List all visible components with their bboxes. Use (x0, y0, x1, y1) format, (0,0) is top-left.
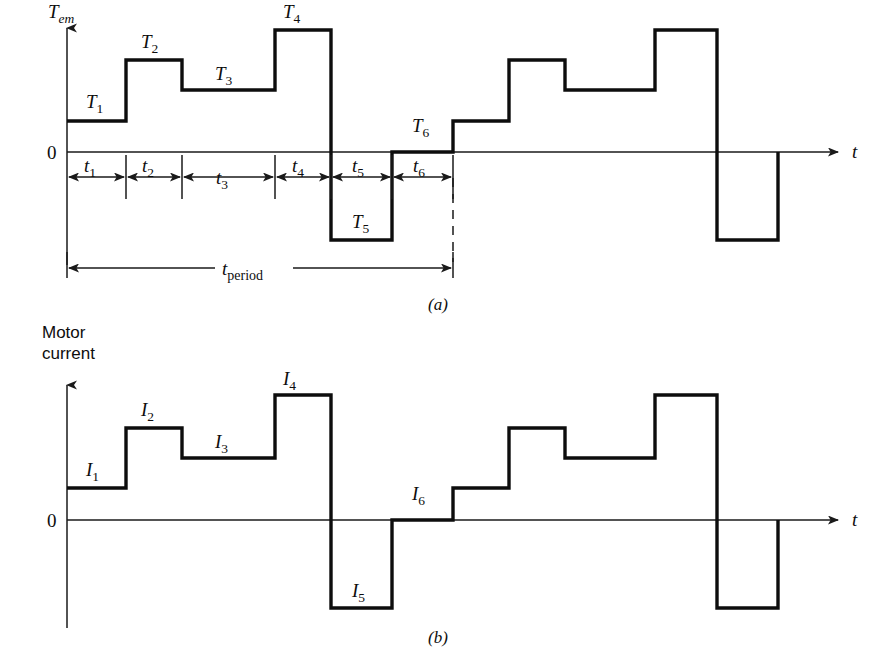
current-x-axis-label: t (852, 509, 858, 530)
segment-label-I3: I3 (214, 431, 228, 456)
current-zero-label: 0 (47, 510, 57, 531)
caption-b: (b) (428, 628, 448, 647)
interval-label-t3: t3 (216, 167, 228, 192)
chart-motor-current: Motor current 0 t I1 I2 I3 I4 I5 I6 (42, 323, 858, 628)
interval-label-t4: t4 (292, 155, 304, 180)
interval-label-t6: t6 (413, 155, 425, 180)
segment-label-I4: I4 (282, 368, 296, 393)
interval-label-t5: t5 (352, 155, 364, 180)
segment-label-T2: T2 (141, 31, 158, 56)
current-y-axis-label-line2: current (42, 344, 95, 363)
torque-zero-label: 0 (47, 142, 57, 163)
segment-label-I6: I6 (411, 483, 425, 508)
torque-dimension-row (69, 155, 453, 262)
waveform-figure-svg: Tem 0 t T1 T2 T3 T4 T5 T6 (0, 0, 888, 652)
chart-torque: Tem 0 t T1 T2 T3 T4 T5 T6 (47, 1, 858, 283)
segment-label-T4: T4 (283, 1, 301, 26)
segment-label-I1: I1 (85, 459, 99, 484)
current-y-axis-label-line1: Motor (42, 323, 86, 342)
segment-label-T5: T5 (352, 211, 370, 236)
interval-label-t2: t2 (142, 155, 154, 180)
segment-label-T3: T3 (215, 63, 233, 88)
segment-label-T1: T1 (86, 91, 103, 116)
segment-label-T6: T6 (412, 115, 430, 140)
caption-a: (a) (428, 295, 448, 314)
interval-label-t1: t1 (84, 155, 96, 180)
torque-x-axis-label: t (852, 141, 858, 162)
segment-label-I2: I2 (140, 399, 154, 424)
segment-label-I5: I5 (351, 580, 365, 605)
figure-container: Tem 0 t T1 T2 T3 T4 T5 T6 (0, 0, 888, 652)
torque-y-axis-label: Tem (48, 1, 75, 26)
